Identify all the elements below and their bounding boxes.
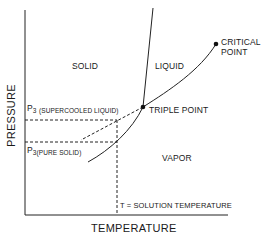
- p3-supercooled-qualifier: (SUPERCOOLED LIQUID): [39, 107, 119, 114]
- p3-supercooled-label: P3 (SUPERCOOLED LIQUID): [27, 104, 119, 113]
- y-axis-label: PRESSURE: [6, 81, 17, 151]
- vaporization-curve: [143, 44, 216, 107]
- p3-pure-solid-subscript: 3: [33, 149, 37, 156]
- critical-point-label-line1: CRITICAL: [221, 37, 261, 47]
- p3-pure-solid-symbol: P: [27, 145, 33, 155]
- p3-supercooled-subscript: 3: [33, 107, 37, 114]
- solution-temperature-label: T = SOLUTION TEMPERATURE: [120, 202, 232, 210]
- critical-point-label: CRITICAL POINT: [221, 37, 261, 57]
- critical-point-label-line2: POINT: [221, 47, 261, 57]
- x-axis-label: TEMPERATURE: [91, 223, 177, 234]
- p3-pure-solid-qualifier: (PURE SOLID): [37, 149, 82, 156]
- region-vapor-label: VAPOR: [162, 154, 192, 163]
- region-solid-label: SOLID: [72, 62, 98, 71]
- sublimation-curve: [88, 107, 143, 162]
- triple-point-label: TRIPLE POINT: [149, 106, 208, 115]
- fusion-curve: [143, 8, 153, 107]
- region-liquid-label: LIQUID: [155, 62, 184, 71]
- p3-pure-solid-label: P3(PURE SOLID): [27, 146, 81, 155]
- triple-point-marker: [141, 105, 146, 110]
- critical-point-marker: [214, 42, 219, 47]
- p3-supercooled-symbol: P: [27, 103, 33, 113]
